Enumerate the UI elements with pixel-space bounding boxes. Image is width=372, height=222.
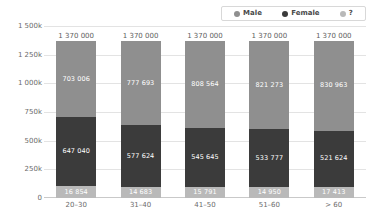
y-tick-label: 0 xyxy=(2,195,42,202)
bar-segment-female[interactable]: 647 040 xyxy=(56,117,96,187)
bar-group: 1 370 000 703 006 647 040 16 854 1 370 0… xyxy=(44,26,366,198)
bar-segment-unknown[interactable]: 17 413 xyxy=(314,187,354,198)
bar-segment-female-label: 545 645 xyxy=(191,154,219,161)
bar-segment-female[interactable]: 545 645 xyxy=(185,128,225,187)
bar-segment-unknown-label: 16 854 xyxy=(65,189,88,196)
bar-segment-unknown-label: 14 950 xyxy=(258,189,281,196)
bar-segment-male-label: 703 006 xyxy=(62,76,90,83)
bar-column[interactable]: 1 370 000 703 006 647 040 16 854 xyxy=(54,26,98,198)
bar-column[interactable]: 1 370 000 777 693 577 624 14 683 xyxy=(119,26,163,198)
y-tick-label: 750k xyxy=(2,109,42,116)
bar-segment-male[interactable]: 703 006 xyxy=(56,41,96,117)
bar-segment-unknown-label: 17 413 xyxy=(322,189,345,196)
bar-segment-female-label: 647 040 xyxy=(62,148,90,155)
y-tick-label: 500k xyxy=(2,137,42,144)
bar-total-label: 1 370 000 xyxy=(252,33,288,40)
legend-label-unknown: ? xyxy=(349,10,353,17)
bar-column[interactable]: 1 370 000 808 564 545 645 15 791 xyxy=(183,26,227,198)
bar-total-label: 1 370 000 xyxy=(316,33,352,40)
bar-segment-unknown[interactable]: 16 854 xyxy=(56,186,96,198)
bar-total-label: 1 370 000 xyxy=(123,33,159,40)
bar-segment-female-label: 533 777 xyxy=(256,155,284,162)
bar-segment-male-label: 821 273 xyxy=(256,82,284,89)
y-axis: 1 500k 1 250k 1 000k 750k 500k 250k 0 xyxy=(0,26,42,198)
bar-segment-female[interactable]: 521 624 xyxy=(314,131,354,187)
bar-total-label: 1 370 000 xyxy=(58,33,94,40)
chart-legend: Male Female ? xyxy=(221,6,366,21)
bar-column[interactable]: 1 370 000 821 273 533 777 14 950 xyxy=(247,26,291,198)
bar-segment-male[interactable]: 777 693 xyxy=(121,41,161,125)
bar-segment-unknown[interactable]: 15 791 xyxy=(185,187,225,198)
bar-total-label: 1 370 000 xyxy=(187,33,223,40)
legend-item-unknown[interactable]: ? xyxy=(340,10,353,17)
bar-segment-unknown-label: 15 791 xyxy=(193,189,216,196)
bar-segment-unknown[interactable]: 14 683 xyxy=(121,187,161,198)
legend-swatch-male-icon xyxy=(234,11,240,17)
bar-column[interactable]: 1 370 000 830 963 521 624 17 413 xyxy=(312,26,356,198)
legend-swatch-female-icon xyxy=(282,11,288,17)
bar-stack: 830 963 521 624 17 413 xyxy=(314,41,354,198)
bar-stack: 821 273 533 777 14 950 xyxy=(249,41,289,198)
bar-segment-male[interactable]: 808 564 xyxy=(185,41,225,128)
legend-item-female[interactable]: Female xyxy=(282,10,319,17)
bar-segment-female-label: 577 624 xyxy=(127,153,155,160)
legend-label-male: Male xyxy=(243,10,262,17)
bar-stack: 777 693 577 624 14 683 xyxy=(121,41,161,198)
x-tick-label-31-40: 31–40 xyxy=(119,202,163,209)
bar-stack: 808 564 545 645 15 791 xyxy=(185,41,225,198)
x-axis: 20–30 31–40 41–50 51–60 > 60 xyxy=(44,202,366,218)
bar-segment-female-label: 521 624 xyxy=(320,155,348,162)
y-tick-label: 250k xyxy=(2,166,42,173)
bar-segment-male-label: 830 963 xyxy=(320,82,348,89)
bar-segment-female[interactable]: 533 777 xyxy=(249,129,289,187)
bar-segment-unknown[interactable]: 14 950 xyxy=(249,187,289,198)
y-tick-label: 1 500k xyxy=(2,23,42,30)
bar-segment-male[interactable]: 830 963 xyxy=(314,41,354,131)
legend-item-male[interactable]: Male xyxy=(234,10,262,17)
y-tick-label: 1 000k xyxy=(2,80,42,87)
bar-segment-male[interactable]: 821 273 xyxy=(249,41,289,130)
x-tick-label-41-50: 41–50 xyxy=(183,202,227,209)
y-tick-label: 1 250k xyxy=(2,51,42,58)
stacked-bar-chart: Male Female ? 1 500k 1 250k 1 000k 750k … xyxy=(0,0,372,222)
legend-label-female: Female xyxy=(291,10,319,17)
x-tick-label-20-30: 20–30 xyxy=(54,202,98,209)
bar-segment-male-label: 808 564 xyxy=(191,81,219,88)
x-tick-label-over-60: > 60 xyxy=(312,202,356,209)
bar-segment-male-label: 777 693 xyxy=(127,80,155,87)
x-tick-label-51-60: 51–60 xyxy=(247,202,291,209)
legend-swatch-unknown-icon xyxy=(340,11,346,17)
bar-segment-female[interactable]: 577 624 xyxy=(121,125,161,187)
bar-segment-unknown-label: 14 683 xyxy=(129,189,152,196)
bar-stack: 703 006 647 040 16 854 xyxy=(56,41,96,198)
